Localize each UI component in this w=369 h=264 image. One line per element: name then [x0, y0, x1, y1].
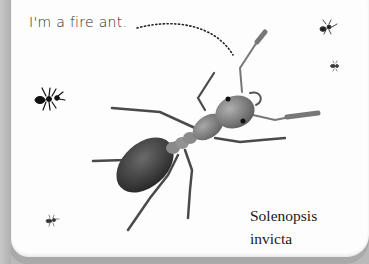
species-genus: Solenopsis — [250, 204, 317, 227]
species-epithet: invicta — [250, 227, 317, 250]
small-ant-top-right — [320, 20, 337, 34]
small-ant-right — [331, 61, 339, 71]
small-ant-bottom-left — [46, 215, 59, 226]
dotted-pointer-line — [137, 24, 233, 55]
species-name: Solenopsis invicta — [250, 204, 317, 250]
small-ant-left — [35, 88, 65, 110]
